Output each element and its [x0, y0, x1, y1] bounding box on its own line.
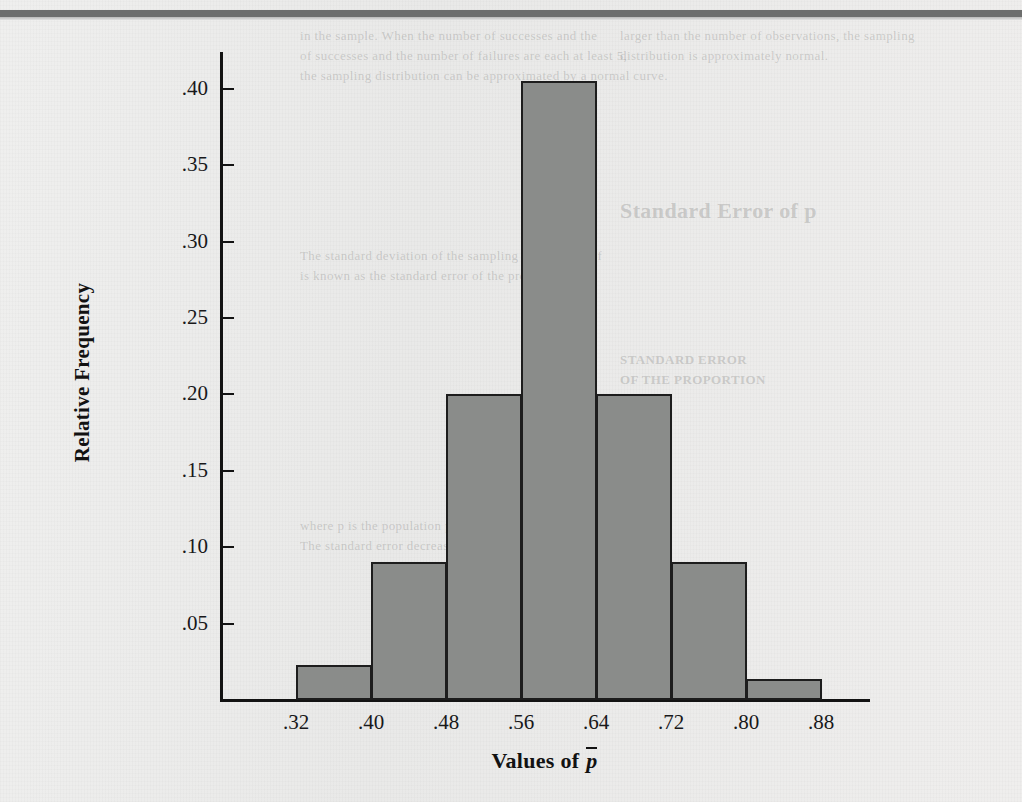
y-axis-tick-mark — [223, 546, 234, 548]
histogram-bar — [296, 665, 372, 700]
y-axis-line — [220, 52, 223, 702]
x-axis-tick-label: .88 — [786, 712, 856, 733]
y-axis-tick-label: .10 — [150, 536, 208, 557]
histogram-bar — [746, 679, 822, 700]
x-axis-tick-label: .40 — [336, 712, 406, 733]
y-axis-tick-mark — [223, 317, 234, 319]
x-axis-tick-label: .32 — [261, 712, 331, 733]
y-axis-tick-label: .15 — [150, 460, 208, 481]
x-axis-title: Values of p — [220, 748, 870, 774]
y-axis-tick-label: .30 — [150, 231, 208, 252]
histogram-bar — [371, 562, 447, 700]
y-axis-tick-label: .20 — [150, 383, 208, 404]
y-axis-tick-label: .05 — [150, 613, 208, 634]
histogram-bar — [596, 394, 672, 700]
x-axis-title-text: Values of — [491, 748, 579, 773]
y-axis-tick-mark — [223, 470, 234, 472]
x-axis-tick-label: .48 — [411, 712, 481, 733]
scanned-textbook-page: in the sample. When the number of succes… — [0, 0, 1022, 802]
x-axis-tick-label: .64 — [561, 712, 631, 733]
overbar-glyph — [586, 747, 596, 749]
y-axis-title: Relative Frequency — [70, 243, 95, 503]
y-axis-tick-mark — [223, 88, 234, 90]
histogram-bar — [671, 562, 747, 700]
y-axis-tick-label: .25 — [150, 307, 208, 328]
x-axis-tick-label: .56 — [486, 712, 556, 733]
y-axis-tick-mark — [223, 241, 234, 243]
y-axis-tick-mark — [223, 623, 234, 625]
x-axis-tick-label: .72 — [636, 712, 706, 733]
y-axis-tick-label: .35 — [150, 154, 208, 175]
y-axis-tick-label: .40 — [150, 78, 208, 99]
x-axis-tick-label: .80 — [711, 712, 781, 733]
p-bar-symbol: p — [585, 748, 598, 773]
relative-frequency-histogram: .05.10.15.20.25.30.35.40 .32.40.48.56.64… — [0, 0, 1022, 802]
y-axis-tick-mark — [223, 164, 234, 166]
y-axis-tick-mark — [223, 393, 234, 395]
histogram-bar — [446, 394, 522, 700]
histogram-bar — [521, 81, 597, 700]
